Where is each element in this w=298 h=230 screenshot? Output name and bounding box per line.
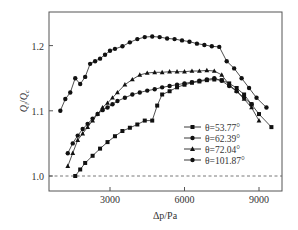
data-point — [122, 82, 127, 86]
legend-item: θ=72.04° — [184, 145, 240, 155]
data-point — [167, 84, 171, 88]
y-tick-label: 1.0 — [32, 171, 45, 182]
data-point — [135, 122, 139, 126]
data-point — [249, 102, 253, 106]
data-point — [167, 69, 172, 73]
data-point — [103, 53, 107, 57]
circle-marker-icon — [190, 158, 194, 162]
data-point — [106, 140, 110, 144]
data-point — [130, 77, 135, 81]
svg-text:θ=72.04°: θ=72.04° — [205, 145, 240, 155]
data-point — [160, 85, 164, 89]
x-tick-label: 6000 — [175, 194, 195, 205]
data-point — [128, 126, 132, 130]
data-point — [143, 35, 147, 39]
data-point — [91, 154, 95, 158]
data-point — [219, 72, 224, 76]
data-point — [93, 59, 97, 63]
data-point — [70, 151, 75, 155]
data-point — [232, 66, 236, 70]
data-point — [143, 119, 147, 123]
data-point — [182, 81, 186, 85]
x-tick-label: 9000 — [249, 194, 269, 205]
data-point — [76, 133, 80, 137]
data-point — [98, 147, 102, 151]
data-point — [100, 108, 104, 112]
data-point — [145, 88, 149, 92]
data-point — [157, 35, 161, 39]
legend-item: θ=53.77° — [184, 123, 240, 133]
data-point — [63, 97, 67, 101]
y-tick-label: 1.1 — [32, 106, 45, 117]
data-point — [68, 90, 72, 94]
data-point — [264, 105, 268, 109]
svg-text:θ=62.39°: θ=62.39° — [205, 134, 240, 144]
data-point — [95, 112, 99, 116]
data-point — [239, 76, 243, 80]
data-point — [120, 44, 124, 48]
chart: 1.0 1.1 1.2 3000 6000 9000 Δp/Pa Qi/Qc θ… — [0, 0, 298, 230]
data-point — [73, 174, 77, 178]
circle-marker-icon — [190, 136, 194, 140]
data-point — [257, 112, 261, 116]
svg-text:Qi/Qc: Qi/Qc — [18, 89, 31, 112]
data-point — [73, 76, 77, 80]
data-point — [187, 39, 191, 43]
data-point — [123, 96, 127, 100]
data-point — [66, 151, 70, 155]
data-point — [190, 80, 194, 84]
data-point — [254, 96, 258, 100]
data-point — [108, 49, 112, 53]
data-point — [160, 93, 164, 97]
data-point — [128, 40, 132, 44]
data-point — [172, 37, 176, 41]
data-point — [130, 92, 134, 96]
data-point — [195, 41, 199, 45]
data-point — [220, 79, 224, 83]
data-point — [212, 76, 216, 80]
data-point — [58, 109, 62, 113]
data-point — [205, 77, 209, 81]
legend: θ=53.77° θ=62.39° θ=72.04° θ=101.87° — [184, 123, 245, 166]
data-point — [83, 75, 87, 79]
data-point — [155, 104, 159, 108]
data-point — [65, 164, 70, 168]
x-tick-label: 3000 — [100, 194, 120, 205]
data-point — [113, 134, 117, 138]
data-point — [180, 38, 184, 42]
data-point — [78, 82, 82, 86]
data-point — [120, 129, 124, 133]
data-point — [88, 62, 92, 66]
data-point — [197, 79, 201, 83]
data-point — [105, 105, 109, 109]
data-point — [115, 99, 119, 103]
y-axis-ticks — [49, 46, 53, 176]
data-point — [78, 167, 82, 171]
data-point — [85, 122, 89, 126]
y-tick-label: 1.2 — [32, 41, 45, 52]
data-point — [175, 83, 179, 87]
data-point — [80, 127, 84, 131]
square-marker-icon — [191, 125, 195, 129]
svg-text:θ=53.77°: θ=53.77° — [205, 123, 240, 133]
legend-item: θ=62.39° — [184, 134, 240, 144]
data-point — [234, 89, 238, 93]
data-point — [175, 69, 180, 73]
data-point — [83, 161, 87, 165]
data-point — [217, 45, 221, 49]
data-point — [90, 116, 94, 120]
data-point — [202, 43, 206, 47]
data-point — [210, 44, 214, 48]
data-point — [138, 90, 142, 94]
data-point — [135, 37, 139, 41]
data-point — [247, 86, 251, 90]
data-point — [257, 118, 262, 122]
data-point — [165, 36, 169, 40]
data-point — [242, 96, 246, 100]
legend-item: θ=101.87° — [184, 156, 245, 166]
data-point — [110, 102, 114, 106]
data-point — [150, 34, 154, 38]
data-point — [225, 59, 229, 63]
data-point — [71, 141, 75, 145]
data-point — [152, 87, 156, 91]
